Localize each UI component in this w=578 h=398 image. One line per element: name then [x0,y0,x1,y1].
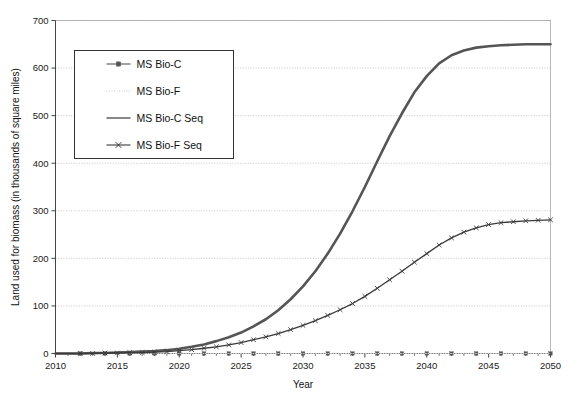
data-point-marker [400,269,405,274]
x-axis-title: Year [293,379,314,390]
data-point-marker [350,301,355,306]
data-point-marker [412,260,417,265]
y-tick-label: 700 [33,15,49,26]
data-point-marker [449,236,454,241]
data-point-marker [338,307,343,312]
x-tick-label: 2030 [292,360,313,371]
legend-item-label: MS Bio-F Seq [137,139,203,151]
x-tick-label: 2045 [478,360,499,371]
x-tick-label: 2035 [354,360,375,371]
y-tick-label: 0 [43,348,48,359]
y-axis-title: Land used for biomass (in thousands of s… [10,68,21,306]
x-tick-label: 2050 [540,360,561,371]
y-tick-labels: 0100200300400500600700 [33,15,49,359]
x-tick-label: 2025 [231,360,252,371]
y-tick-label: 200 [33,253,49,264]
data-point-marker [375,286,380,291]
x-tick-label: 2015 [107,360,128,371]
y-ticks [52,21,56,354]
x-tick-label: 2040 [416,360,437,371]
y-tick-label: 600 [33,62,49,73]
y-tick-label: 500 [33,110,49,121]
legend-item-label: MS Bio-F [137,85,181,97]
y-tick-label: 400 [33,158,49,169]
line-chart: 0100200300400500600700 20102015202020252… [0,0,578,398]
data-point-marker [363,294,368,299]
legend-square-marker-icon [116,62,120,66]
legend-item-label: MS Bio-C Seq [137,112,204,124]
x-tick-label: 2010 [45,360,66,371]
data-point-marker [387,277,392,282]
x-tick-labels: 201020152020202520302035204020452050 [45,360,561,371]
y-tick-label: 100 [33,300,49,311]
data-point-marker [437,243,442,248]
y-tick-label: 300 [33,205,49,216]
legend: MS Bio-CMS Bio-FMS Bio-C SeqMS Bio-F Seq [75,51,234,159]
x-tick-label: 2020 [169,360,190,371]
data-point-marker [424,251,429,256]
chart-container: 0100200300400500600700 20102015202020252… [0,0,578,398]
legend-item-label: MS Bio-C [137,58,182,70]
